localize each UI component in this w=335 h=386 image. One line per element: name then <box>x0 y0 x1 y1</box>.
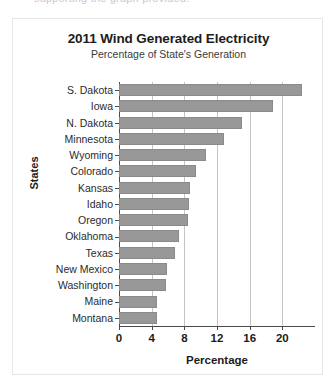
category-label-iowa: Iowa <box>91 98 113 114</box>
category-label-minnesota: Minnesota <box>65 131 113 147</box>
chart-card: 2011 Wind Generated Electricity Percenta… <box>12 18 323 375</box>
x-axis-ticks: 048121620 <box>119 82 315 326</box>
x-axis-tick-4 <box>152 326 153 330</box>
category-label-maine: Maine <box>84 293 113 309</box>
category-label-texas: Texas <box>86 245 113 261</box>
x-axis-tick-8 <box>184 326 185 330</box>
x-axis-tick-label-8: 8 <box>169 332 199 344</box>
x-axis-tick-label-16: 16 <box>235 332 265 344</box>
x-axis-tick-label-20: 20 <box>267 332 297 344</box>
category-label-idaho: Idaho <box>87 196 113 212</box>
category-label-s-dakota: S. Dakota <box>67 82 113 98</box>
category-label-oregon: Oregon <box>78 212 113 228</box>
clipped-header-label: supporting the graph provided. <box>34 0 189 4</box>
category-label-n-dakota: N. Dakota <box>66 115 113 131</box>
category-label-washington: Washington <box>58 277 113 293</box>
x-axis-tick-label-12: 12 <box>202 332 232 344</box>
x-axis-tick-label-4: 4 <box>137 332 167 344</box>
chart-subtitle: Percentage of State's Generation <box>13 48 324 60</box>
x-axis-title: Percentage <box>119 354 315 366</box>
plot-area: S. DakotaIowaN. DakotaMinnesotaWyomingCo… <box>119 82 315 326</box>
x-axis-tick-20 <box>282 326 283 330</box>
clipped-header-text: supporting the graph provided. <box>0 0 335 10</box>
category-label-oklahoma: Oklahoma <box>65 228 113 244</box>
x-axis-tick-16 <box>250 326 251 330</box>
category-label-colorado: Colorado <box>70 163 113 179</box>
category-label-new-mexico: New Mexico <box>56 261 113 277</box>
category-label-kansas: Kansas <box>78 180 113 196</box>
chart-title: 2011 Wind Generated Electricity <box>13 31 324 46</box>
x-axis-tick-0 <box>119 326 120 330</box>
category-label-montana: Montana <box>72 310 113 326</box>
category-label-wyoming: Wyoming <box>69 147 113 163</box>
x-axis-tick-12 <box>217 326 218 330</box>
x-axis-tick-label-0: 0 <box>104 332 134 344</box>
y-axis-title: States <box>28 143 40 203</box>
